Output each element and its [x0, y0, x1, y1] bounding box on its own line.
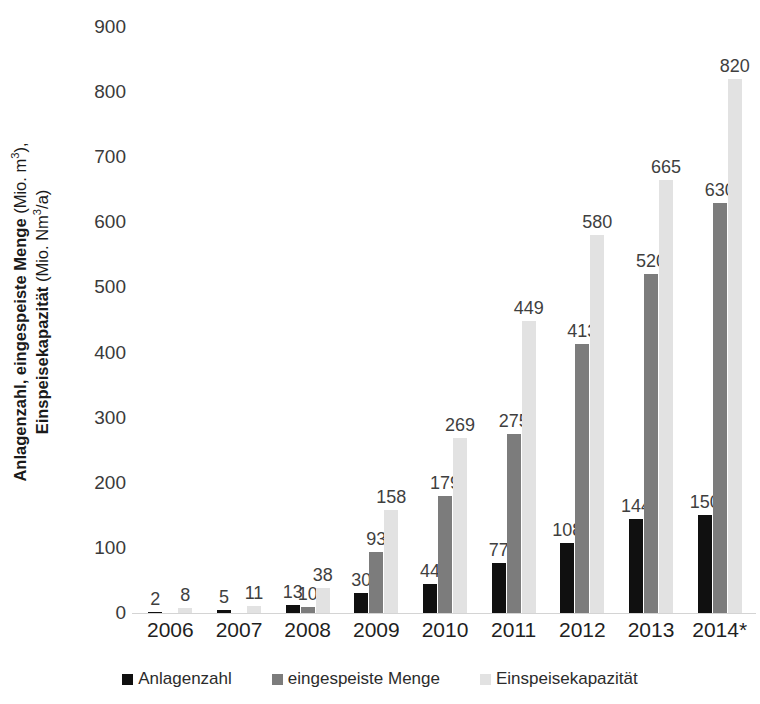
- bar[interactable]: [522, 321, 536, 613]
- bar[interactable]: [423, 584, 437, 613]
- x-axis-line: [132, 613, 756, 614]
- bar-value-label: 11: [245, 583, 264, 604]
- legend-item[interactable]: eingespeiste Menge: [272, 669, 440, 689]
- bar-value-label: 77: [489, 540, 509, 561]
- bar-wrapper: 580: [590, 27, 604, 613]
- bar-value-label: 449: [514, 298, 544, 319]
- bar[interactable]: [492, 563, 506, 613]
- y-axis-title-line-1: Anlagenzahl, eingespeiste Menge (Mio. m3…: [9, 142, 31, 481]
- bar-wrapper: 269: [453, 27, 467, 613]
- y-axis-tick-900: 900: [94, 16, 126, 38]
- bar[interactable]: [659, 180, 673, 613]
- legend-swatch-icon: [122, 674, 133, 685]
- bar-value-label: 8: [180, 585, 190, 606]
- legend-swatch-icon: [272, 674, 283, 685]
- bar[interactable]: [438, 496, 452, 613]
- x-axis-tick-2007: 2007: [216, 618, 263, 642]
- x-axis-tick-2006: 2006: [147, 618, 194, 642]
- bar[interactable]: [629, 519, 643, 613]
- bar[interactable]: [178, 608, 192, 613]
- bar-group: 28: [136, 27, 205, 613]
- bar-wrapper: 44: [423, 27, 437, 613]
- legend-label: Anlagenzahl: [138, 669, 232, 689]
- legend-item[interactable]: Einspeisekapazität: [480, 669, 638, 689]
- bar-wrapper: 2: [148, 27, 162, 613]
- x-axis-tick-2012: 2012: [559, 618, 606, 642]
- y-axis-tick-200: 200: [94, 472, 126, 494]
- bar[interactable]: [286, 605, 300, 613]
- y-axis-tick-500: 500: [94, 276, 126, 298]
- bar[interactable]: [698, 515, 712, 613]
- y-axis-tick-700: 700: [94, 146, 126, 168]
- x-axis-tick-2010: 2010: [422, 618, 469, 642]
- bar-value-label: 93: [366, 529, 386, 550]
- bar-wrapper: 413: [575, 27, 589, 613]
- bar-wrapper: 179: [438, 27, 452, 613]
- bar[interactable]: [217, 610, 231, 613]
- plot-area: 2851113103830931584417926977275449108413…: [136, 27, 754, 613]
- bar-wrapper: 275: [507, 27, 521, 613]
- y-axis-tick-0: 0: [115, 602, 126, 624]
- bar-wrapper: [232, 27, 246, 613]
- bar-wrapper: 158: [384, 27, 398, 613]
- bar-wrapper: 520: [644, 27, 658, 613]
- bar-wrapper: 449: [522, 27, 536, 613]
- bar-group: 144520665: [617, 27, 686, 613]
- bar[interactable]: [369, 552, 383, 613]
- bar[interactable]: [316, 588, 330, 613]
- x-axis-tick-2014: 2014*: [692, 618, 747, 642]
- bar[interactable]: [644, 274, 658, 613]
- bar-group: 131038: [273, 27, 342, 613]
- x-axis-tick-2011: 2011: [491, 618, 536, 642]
- bar[interactable]: [384, 510, 398, 613]
- bar[interactable]: [301, 607, 315, 614]
- bar-wrapper: 30: [354, 27, 368, 613]
- legend-item[interactable]: Anlagenzahl: [122, 669, 232, 689]
- bar-wrapper: 10: [301, 27, 315, 613]
- bar[interactable]: [247, 606, 261, 613]
- bar-wrapper: 13: [286, 27, 300, 613]
- y-axis-title: Anlagenzahl, eingespeiste Menge (Mio. m3…: [0, 0, 62, 624]
- bar[interactable]: [590, 235, 604, 613]
- y-axis-tick-400: 400: [94, 342, 126, 364]
- bar-value-label: 5: [219, 587, 229, 608]
- x-axis-tick-2009: 2009: [353, 618, 400, 642]
- bar[interactable]: [354, 593, 368, 613]
- bar-wrapper: 108: [560, 27, 574, 613]
- bar-wrapper: 11: [247, 27, 261, 613]
- bar-value-label: 665: [651, 157, 681, 178]
- bar[interactable]: [453, 438, 467, 613]
- bar-wrapper: 630: [713, 27, 727, 613]
- bar[interactable]: [507, 434, 521, 613]
- bar-wrapper: 8: [178, 27, 192, 613]
- y-axis-title-line-2: Einspeisekapazität (Mio. Nm3/a): [31, 142, 53, 481]
- legend-label: eingespeiste Menge: [288, 669, 440, 689]
- y-axis-tick-800: 800: [94, 81, 126, 103]
- bar-wrapper: 820: [728, 27, 742, 613]
- chart-legend: Anlagenzahleingespeiste MengeEinspeiseka…: [0, 664, 760, 694]
- bar-value-label: 44: [420, 561, 440, 582]
- y-axis-tick-labels: 0100200300400500600700800900: [62, 0, 134, 624]
- bar-value-label: 38: [313, 565, 333, 586]
- legend-swatch-icon: [480, 674, 491, 685]
- bar-chart: Anlagenzahl, eingespeiste Menge (Mio. m3…: [0, 0, 760, 704]
- bar-group: 511: [205, 27, 274, 613]
- bar[interactable]: [713, 203, 727, 613]
- bar[interactable]: [560, 543, 574, 613]
- x-axis-tick-labels: 200620072008200920102011201220132014*: [136, 618, 754, 652]
- bar-group: 3093158: [342, 27, 411, 613]
- bar-wrapper: 144: [629, 27, 643, 613]
- bar-group: 77275449: [479, 27, 548, 613]
- y-axis-tick-300: 300: [94, 407, 126, 429]
- bar-value-label: 580: [582, 212, 612, 233]
- x-axis-tick-2013: 2013: [628, 618, 675, 642]
- bar[interactable]: [148, 612, 162, 613]
- bar-value-label: 269: [445, 415, 475, 436]
- bar[interactable]: [575, 344, 589, 613]
- bar[interactable]: [728, 79, 742, 613]
- bar-value-label: 2: [150, 589, 160, 610]
- bar-value-label: 158: [376, 487, 406, 508]
- bar-wrapper: [163, 27, 177, 613]
- bar-value-label: 820: [720, 56, 750, 77]
- bar-group: 44179269: [411, 27, 480, 613]
